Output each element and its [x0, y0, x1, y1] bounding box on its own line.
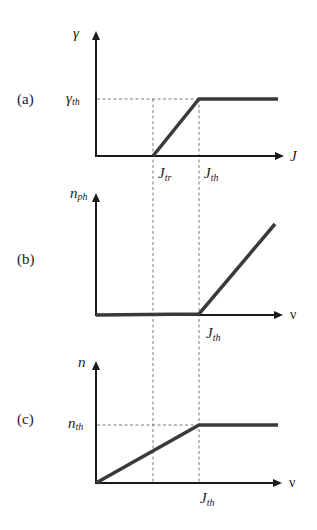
panel-b-x-arrow-icon [274, 311, 283, 319]
panel-c: (c) n ν nth Jth [17, 354, 295, 508]
gamma-th-label: γth [66, 90, 80, 107]
panel-b-y-axis-label: nph [70, 185, 88, 202]
panel-a-y-arrow-icon [92, 31, 100, 40]
j-th-label-c: Jth [200, 490, 214, 508]
j-th-label-b: Jth [206, 325, 220, 343]
j-tr-label: Jtr [158, 165, 171, 183]
panel-b-label: (b) [17, 251, 35, 268]
j-th-label-a: Jth [204, 165, 218, 183]
panel-c-y-axis-label: n [78, 354, 86, 370]
panel-c-x-axis-label: ν [289, 475, 295, 490]
panel-a-x-axis-label: J [290, 148, 298, 164]
panel-c-y-arrow-icon [92, 361, 100, 370]
panel-a: (a) γ J γth Jtr Jth [17, 25, 298, 183]
n-th-label: nth [68, 415, 83, 432]
panel-b-y-arrow-icon [92, 193, 100, 202]
panel-c-x-arrow-icon [273, 479, 282, 487]
photon-density-curve [96, 224, 275, 315]
panel-c-label: (c) [17, 411, 34, 428]
carrier-density-curve [96, 425, 278, 483]
laser-threshold-diagram: (a) γ J γth Jtr Jth (b) nph ν [0, 0, 317, 530]
panel-b: (b) nph ν Jth [17, 185, 296, 343]
panel-b-x-axis-label: ν [290, 307, 296, 322]
panel-a-y-axis-label: γ [73, 25, 80, 41]
gain-curve [153, 99, 278, 156]
panel-a-x-arrow-icon [275, 152, 284, 160]
panel-a-label: (a) [17, 91, 34, 108]
